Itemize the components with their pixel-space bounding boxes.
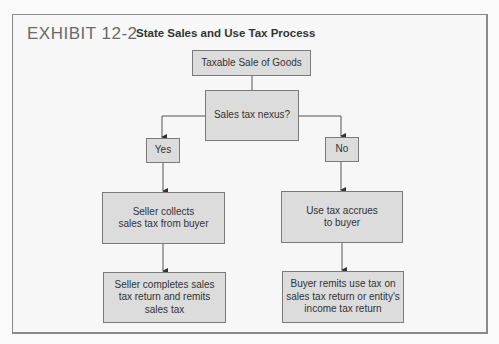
use-tax-line-2: to buyer <box>324 217 360 230</box>
connector-decision-no <box>299 116 341 136</box>
seller-collects-line-2: sales tax from buyer <box>118 218 208 231</box>
decision-box: Sales tax nexus? <box>205 90 299 141</box>
buyer-remits-line-3: income tax return <box>304 303 381 316</box>
seller-collects-box: Seller collects sales tax from buyer <box>102 192 225 244</box>
decision-box-label: Sales tax nexus? <box>214 109 290 122</box>
seller-completes-line-2: tax return and remits <box>119 291 211 304</box>
seller-completes-box: Seller completes sales tax return and re… <box>103 272 226 323</box>
buyer-remits-line-1: Buyer remits use tax on <box>290 278 395 291</box>
yes-box: Yes <box>146 138 180 163</box>
seller-completes-line-1: Seller completes sales <box>114 279 214 292</box>
yes-label: Yes <box>155 144 171 157</box>
start-box: Taxable Sale of Goods <box>192 50 311 76</box>
start-box-label: Taxable Sale of Goods <box>201 57 302 70</box>
no-box: No <box>325 137 359 162</box>
seller-collects-line-1: Seller collects <box>133 206 195 219</box>
buyer-remits-line-2: sales tax return or entity's <box>286 291 400 304</box>
use-tax-line-1: Use tax accrues <box>306 205 378 218</box>
use-tax-accrues-box: Use tax accrues to buyer <box>281 191 403 243</box>
connector-decision-yes <box>162 116 205 137</box>
no-label: No <box>336 143 349 156</box>
seller-completes-line-3: sales tax <box>145 304 184 317</box>
buyer-remits-box: Buyer remits use tax on sales tax return… <box>282 271 404 323</box>
